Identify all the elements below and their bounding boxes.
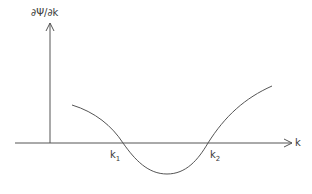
y-axis-label: ∂Ψ/∂k <box>31 8 58 18</box>
derivative-curve <box>72 86 272 174</box>
point-label-k1: k1 <box>110 150 120 160</box>
diagram-canvas <box>0 0 312 194</box>
point-label-k2-sub: 2 <box>216 155 220 163</box>
point-label-k1-sub: 1 <box>116 155 120 163</box>
point-label-k2: k2 <box>210 150 220 160</box>
x-axis-label: k <box>295 138 301 148</box>
